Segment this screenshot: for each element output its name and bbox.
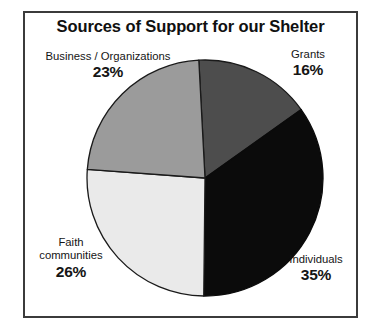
pie-slice-value-grants: 16% — [272, 63, 344, 76]
pie-slice-label-business-organizations: Business / Organizations 23% — [33, 50, 183, 78]
page-title: Sources of Support for our Shelter — [23, 16, 358, 36]
pie-slice-name-grants: Grants — [272, 48, 344, 61]
pie-slice-value-individuals: 35% — [276, 268, 356, 281]
pie-slice-value-business-organizations: 23% — [33, 65, 183, 78]
pie-slice-value-faith-communities: 26% — [28, 265, 114, 278]
pie-slice-name-individuals: Individuals — [276, 253, 356, 266]
chart-figure: Sources of Support for our Shelter Busin… — [0, 0, 380, 331]
pie-slice-label-grants: Grants 16% — [272, 48, 344, 76]
pie-slice-label-individuals: Individuals 35% — [276, 253, 356, 281]
pie-slice-label-faith-communities: Faith communities 26% — [28, 236, 114, 278]
pie-slice-name-faith-communities: Faith communities — [28, 236, 114, 262]
pie-slice-name-business-organizations: Business / Organizations — [33, 50, 183, 63]
